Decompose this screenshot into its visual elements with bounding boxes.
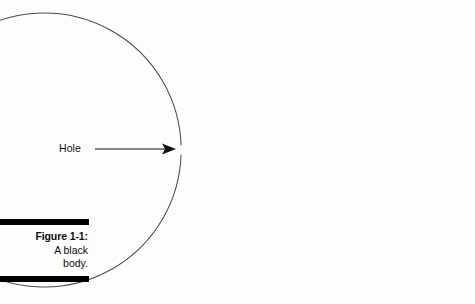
caption-rule-top bbox=[0, 219, 89, 225]
caption-description-line-1: A black bbox=[0, 244, 88, 258]
caption-text: Figure 1-1: A black body. bbox=[0, 230, 89, 271]
figure-number-label: Figure 1-1: bbox=[0, 230, 88, 244]
hole-callout-label: Hole bbox=[59, 142, 81, 155]
caption-description-line-2: body. bbox=[0, 257, 88, 271]
figure-container: Hole Figure 1-1: A black body. bbox=[0, 0, 475, 304]
caption-rule-bottom bbox=[0, 276, 89, 282]
figure-caption-block: Figure 1-1: A black body. bbox=[0, 219, 89, 282]
